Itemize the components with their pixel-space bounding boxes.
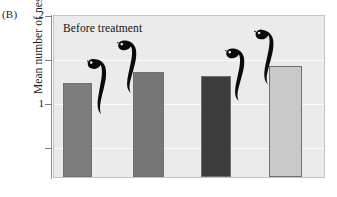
figure-panel-b: (B) Mean number of nests per male 2 1 Be… <box>0 0 337 197</box>
gridline-upper <box>54 60 324 61</box>
y-axis-line <box>51 15 52 179</box>
bar-1 <box>63 83 92 177</box>
y-axis-tick-1 <box>45 104 52 105</box>
y-axis-tick-label-1: 1 <box>22 98 44 109</box>
y-axis-tick-minor-lower <box>45 148 52 149</box>
chart-annotation: Before treatment <box>63 22 142 35</box>
plot-area: Before treatment <box>53 15 325 178</box>
y-axis-tick-label-2: 2 <box>22 9 44 20</box>
panel-label: (B) <box>2 8 17 20</box>
bar-3 <box>201 76 231 177</box>
bar-2 <box>133 72 164 177</box>
bar-4 <box>269 66 302 177</box>
y-axis-tick-minor-upper <box>45 60 52 61</box>
y-axis-tick-2 <box>45 16 52 17</box>
